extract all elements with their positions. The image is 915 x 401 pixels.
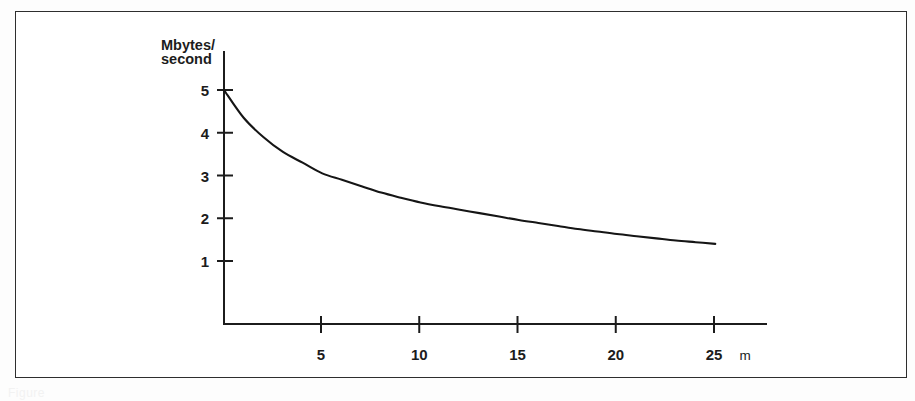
y-tick-label-1: 1 — [201, 253, 209, 270]
x-tick-label-15: 15 — [509, 346, 526, 363]
y-tick-label-5: 5 — [201, 82, 209, 99]
x-tick-label-10: 10 — [411, 346, 428, 363]
y-tick-label-3: 3 — [201, 168, 209, 185]
y-tick-label-2: 2 — [201, 210, 209, 227]
figure-frame: Mbytes/ second 5 4 3 2 1 5 — [15, 11, 907, 378]
y-axis-label-line2: second — [161, 51, 212, 67]
figure-root: Mbytes/ second 5 4 3 2 1 5 — [0, 0, 915, 401]
x-tick-label-5: 5 — [317, 346, 325, 363]
data-curve — [224, 90, 715, 244]
x-axis-unit-label: m — [739, 348, 750, 363]
y-tick-label-4: 4 — [201, 125, 210, 142]
line-chart: Mbytes/ second 5 4 3 2 1 5 — [16, 12, 908, 379]
x-tick-label-20: 20 — [607, 346, 624, 363]
caption-fragment: Figure — [8, 386, 45, 400]
x-tick-label-25: 25 — [706, 346, 723, 363]
